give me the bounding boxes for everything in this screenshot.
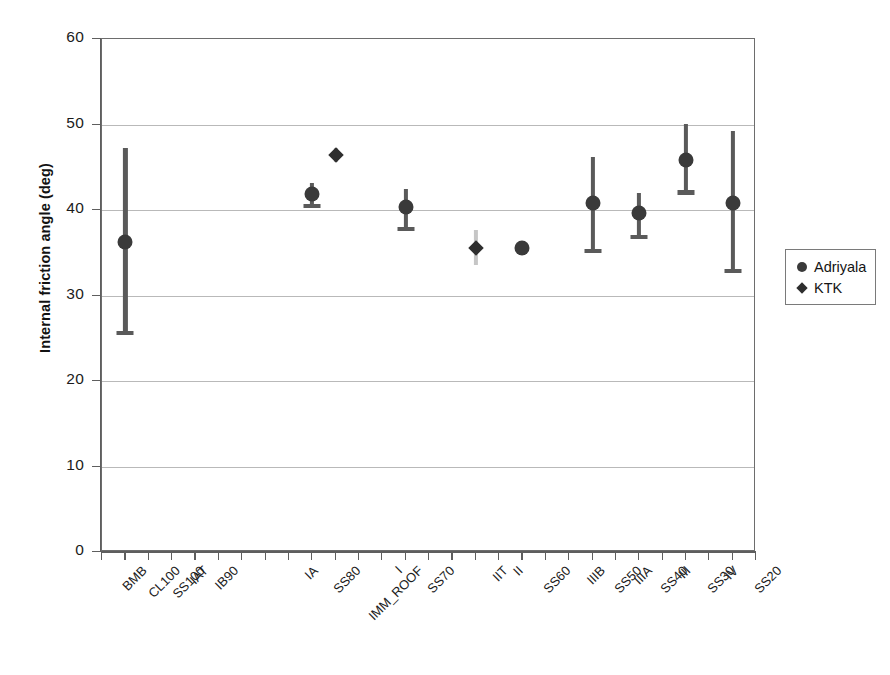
x-axis-tick-label: IIT (489, 563, 510, 584)
data-point-adriyala (725, 196, 740, 211)
x-axis-tick (311, 552, 312, 560)
data-point-adriyala (398, 200, 413, 215)
x-axis-tick (568, 552, 569, 560)
x-axis-tick (428, 552, 429, 560)
x-axis-tick (615, 552, 616, 560)
gridline (102, 467, 754, 468)
data-point-ktk (468, 240, 484, 256)
error-bar-cap (397, 227, 414, 231)
x-axis-tick (358, 552, 359, 560)
legend-item-ktk: KTK (793, 277, 866, 298)
y-axis-tick-label: 0 (40, 541, 84, 559)
error-bar-cap (584, 249, 601, 253)
x-axis-tick (288, 552, 289, 560)
data-point-adriyala (632, 206, 647, 221)
x-axis-tick (101, 552, 102, 560)
x-axis-tick-label: IMM_ROOF (365, 563, 425, 623)
x-axis-tick (592, 552, 593, 560)
gridline (102, 125, 754, 126)
y-axis-tick (92, 551, 101, 552)
x-axis-tick (265, 552, 266, 560)
y-axis-tick-label: 60 (40, 28, 84, 46)
x-axis-tick (405, 552, 406, 560)
y-axis-tick (92, 38, 101, 39)
x-axis-tick (755, 552, 756, 560)
x-axis-tick (708, 552, 709, 560)
y-axis-tick-label: 40 (40, 199, 84, 217)
x-axis-tick (545, 552, 546, 560)
x-axis-tick-label: SS70 (424, 563, 457, 596)
data-point-adriyala (678, 152, 693, 167)
x-axis-tick-label: IB90 (212, 563, 242, 593)
error-bar-cap (724, 269, 741, 273)
x-axis-tick-label: II (510, 563, 526, 579)
legend-item-adriyala: Adriyala (793, 256, 866, 277)
x-axis-tick-label: SS80 (331, 563, 364, 596)
gridline (102, 296, 754, 297)
chart-legend: AdriyalaKTK (785, 249, 876, 305)
x-axis-tick (475, 552, 476, 560)
circle-marker-icon (793, 262, 811, 272)
x-axis-tick (381, 552, 382, 560)
y-axis-tick (92, 124, 101, 125)
x-axis-tick (218, 552, 219, 560)
y-axis-tick (92, 209, 101, 210)
x-axis-tick-label: SS20 (751, 563, 784, 596)
error-bar-cap (117, 331, 134, 335)
x-axis-tick-label: IIIB (584, 563, 608, 587)
x-axis-tick-label: I (392, 563, 405, 576)
error-bar-cap (677, 190, 694, 194)
error-bar-cap (304, 204, 321, 208)
x-axis-tick (148, 552, 149, 560)
x-axis-tick-label: IA (301, 563, 320, 582)
data-point-adriyala (305, 186, 320, 201)
x-axis-tick (521, 552, 522, 560)
x-axis-tick (451, 552, 452, 560)
x-axis-tick (335, 552, 336, 560)
error-bar-cap (631, 235, 648, 239)
y-axis-tick (92, 295, 101, 296)
diamond-marker-icon (793, 284, 811, 292)
y-axis-tick-label: 20 (40, 370, 84, 388)
x-axis-tick (241, 552, 242, 560)
y-axis-tick-label: 50 (40, 114, 84, 132)
x-axis-tick (171, 552, 172, 560)
y-axis-tick-label: 30 (40, 285, 84, 303)
data-point-ktk (328, 147, 344, 163)
y-axis-tick (92, 380, 101, 381)
legend-label: Adriyala (814, 259, 866, 275)
x-axis-tick (638, 552, 639, 560)
legend-label: KTK (814, 280, 842, 296)
data-point-adriyala (118, 234, 133, 249)
gridline (102, 381, 754, 382)
x-axis-tick (662, 552, 663, 560)
gridline (102, 210, 754, 211)
data-point-adriyala (585, 196, 600, 211)
x-axis-tick (124, 552, 125, 560)
x-axis-tick (685, 552, 686, 560)
y-axis-tick-label: 10 (40, 456, 84, 474)
x-axis-tick-label: SS60 (541, 563, 574, 596)
x-axis-tick (732, 552, 733, 560)
x-axis-tick (194, 552, 195, 560)
data-point-adriyala (515, 240, 530, 255)
chart-figure: Internal friction angle (deg) 6050403020… (0, 0, 890, 675)
plot-area (101, 38, 755, 551)
y-axis-tick (92, 466, 101, 467)
x-axis-tick (498, 552, 499, 560)
